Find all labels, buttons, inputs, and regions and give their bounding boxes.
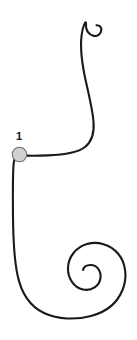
control-point-marker-1[interactable]	[12, 147, 26, 161]
canvas-background	[0, 0, 137, 340]
curve-diagram: 1	[0, 0, 137, 340]
control-point-label-1: 1	[16, 130, 22, 142]
figure-canvas: 1	[0, 0, 137, 340]
